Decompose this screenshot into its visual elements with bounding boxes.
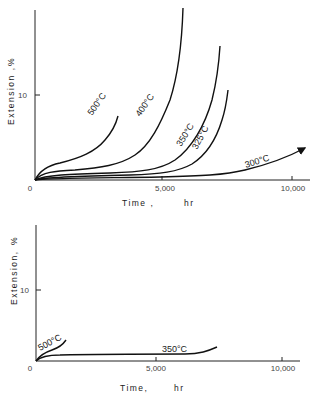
bottom-chart: 10 0 5,000 10,000 Extension, % Time, hr … — [9, 225, 300, 393]
bottom-x-tick-label-end: 10,000 — [271, 364, 296, 373]
top-x-axis-unit: hr — [184, 198, 195, 208]
top-y-tick-label: 10 — [18, 91, 27, 100]
bottom-x-axis-unit: hr — [174, 383, 185, 393]
bottom-label-350c: 350°C — [162, 344, 188, 354]
top-x-tick-label-end: 10,000 — [281, 184, 306, 193]
curve-400c — [35, 8, 183, 180]
bottom-curve-350c — [36, 347, 217, 361]
label-500c: 500°C — [85, 90, 108, 117]
top-y-axis-unit: % — [6, 57, 16, 66]
label-400c: 400°C — [133, 91, 156, 118]
top-x-tick-label-mid: 5,000 — [155, 184, 176, 193]
top-origin-label: 0 — [28, 184, 33, 193]
top-chart: 10 0 5,000 10,000 Extension , % Time , h… — [6, 8, 310, 208]
bottom-origin-label: 0 — [28, 364, 33, 373]
bottom-x-axis-label: Time, — [120, 383, 148, 393]
top-x-axis-label: Time , — [122, 198, 154, 208]
bottom-y-tick-label: 10 — [20, 286, 29, 295]
bottom-label-500c: 500°C — [36, 332, 63, 353]
bottom-x-tick-label-mid: 5,000 — [146, 364, 167, 373]
top-y-axis-label: Extension , — [6, 66, 16, 125]
bottom-y-axis-unit: % — [9, 236, 19, 245]
creep-curves-figure: 10 0 5,000 10,000 Extension , % Time , h… — [0, 0, 320, 401]
figure: 10 0 5,000 10,000 Extension , % Time , h… — [0, 0, 320, 401]
bottom-y-axis-label: Extension, — [9, 250, 19, 305]
